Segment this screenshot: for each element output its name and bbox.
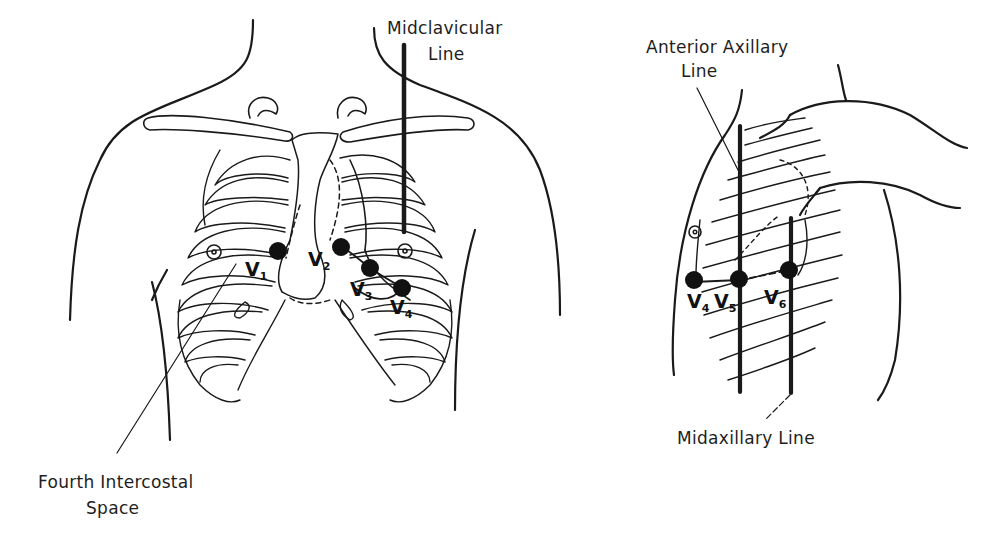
- lead-label-v6: V6: [764, 286, 786, 311]
- lead-label-v2: V2: [308, 248, 330, 273]
- electrode-v4-dot: [393, 279, 411, 297]
- chest-diagram-art: [0, 0, 995, 547]
- ribs-left: [178, 150, 290, 402]
- electrode-v2-dot: [332, 238, 350, 256]
- lead-label-v3: V3: [350, 278, 372, 303]
- midclavicular-label-line2: Line: [428, 44, 465, 64]
- lead-label-v1: V1: [245, 258, 267, 283]
- midaxillary-pointer: [765, 395, 790, 420]
- anterior-axillary-pointer: [697, 88, 738, 170]
- lead-label-side-v4: V4: [687, 290, 709, 315]
- electrode-v4-side-dot: [685, 271, 703, 289]
- fourth-intercostal-label-line1: Fourth Intercostal: [38, 472, 194, 492]
- fourth-intercostal-pointer: [117, 264, 236, 453]
- front-electrodes: [269, 238, 411, 297]
- lead-label-v4: V4: [390, 296, 412, 321]
- anterior-axillary-label-line1: Anterior Axillary: [646, 37, 788, 57]
- electrode-v5-dot: [730, 270, 748, 288]
- lead-label-v5: V5: [714, 290, 736, 315]
- costal-margin: [235, 300, 395, 390]
- electrode-v6-dot: [780, 261, 798, 279]
- electrode-v3-dot: [361, 259, 379, 277]
- sternum: [279, 133, 340, 304]
- fourth-intercostal-label-line2: Space: [86, 498, 139, 518]
- electrode-v1-dot: [269, 242, 287, 260]
- clavicles: [144, 97, 474, 142]
- midclavicular-label-line1: Midclavicular: [387, 18, 503, 38]
- side-torso-outline: [673, 65, 967, 400]
- side-landmark-marker-dot: [693, 230, 697, 234]
- side-ribs: [696, 118, 842, 380]
- anterior-axillary-label-line2: Line: [681, 61, 718, 81]
- midaxillary-label: Midaxillary Line: [677, 428, 815, 448]
